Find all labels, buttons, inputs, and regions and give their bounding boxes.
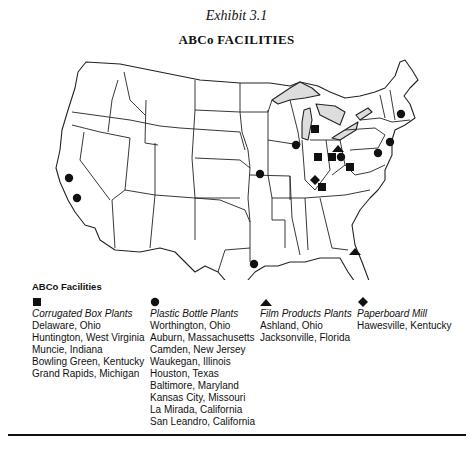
marker-huntington: [346, 163, 354, 171]
legend-paperboard-mill: Paperboard Mill Hawesville, Kentucky: [357, 296, 451, 332]
location: San Leandro, California: [150, 416, 255, 428]
location: Jacksonville, Florida: [260, 332, 352, 344]
location: Waukegan, Illinois: [150, 356, 255, 368]
legend-title: ABCo Facilities: [32, 281, 102, 292]
category-label: Paperboard Mill: [357, 308, 451, 320]
location: Kansas City, Missouri: [150, 392, 255, 404]
location: Baltimore, Maryland: [150, 380, 255, 392]
legend-plastic-bottle: Plastic Bottle Plants Worthington, Ohio …: [150, 296, 255, 428]
location: Hawesville, Kentucky: [357, 320, 451, 332]
marker-worthington: [337, 153, 345, 161]
triangle-icon: [260, 297, 272, 307]
location: Delaware, Ohio: [32, 320, 144, 332]
marker-muncie: [314, 153, 322, 161]
legend-film-products: Film Products Plants Ashland, Ohio Jacks…: [260, 296, 352, 344]
location: Worthington, Ohio: [150, 320, 255, 332]
square-icon: [32, 297, 42, 307]
category-label: Plastic Bottle Plants: [150, 308, 255, 320]
location: Huntington, West Virginia: [32, 332, 144, 344]
category-label: Film Products Plants: [260, 308, 352, 320]
marker-delaware-oh: [328, 153, 336, 161]
marker-la-mirada: [73, 194, 81, 202]
marker-waukegan: [292, 141, 300, 149]
marker-baltimore: [374, 149, 382, 157]
category-label: Corrugated Box Plants: [32, 308, 144, 320]
marker-auburn: [397, 110, 405, 118]
location: Bowling Green, Kentucky: [32, 356, 144, 368]
location: La Mirada, California: [150, 404, 255, 416]
diamond-icon: [357, 296, 369, 308]
legend-corrugated-box: Corrugated Box Plants Delaware, Ohio Hun…: [32, 296, 144, 380]
marker-kansas-city: [256, 170, 264, 178]
marker-grand-rapids: [311, 125, 319, 133]
circle-icon: [150, 297, 160, 307]
location: Grand Rapids, Michigan: [32, 368, 144, 380]
location: Muncie, Indiana: [32, 344, 144, 356]
exhibit-label: Exhibit 3.1: [0, 8, 473, 24]
us-map: [0, 45, 473, 280]
marker-houston: [250, 260, 258, 268]
location: Auburn, Massachusetts: [150, 332, 255, 344]
marker-camden: [386, 138, 394, 146]
divider-rule: [8, 434, 466, 436]
location: Camden, New Jersey: [150, 344, 255, 356]
marker-bowling-green: [318, 183, 326, 191]
location: Ashland, Ohio: [260, 320, 352, 332]
us-outline: [56, 60, 418, 280]
marker-san-leandro: [65, 174, 73, 182]
location: Houston, Texas: [150, 368, 255, 380]
